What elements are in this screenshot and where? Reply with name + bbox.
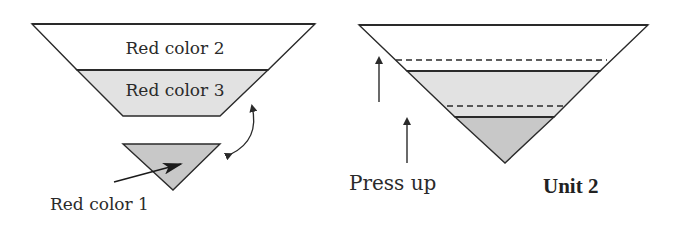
label-red-color-3: Red color 3 [126, 80, 225, 100]
right-funnel [359, 25, 648, 163]
caption-unit-2: Unit 2 [543, 174, 598, 198]
diagram-canvas: Red color 2 Red color 3 Red color 1 Pres… [0, 0, 677, 229]
right-funnel-top-layer [359, 25, 648, 71]
label-press-up: Press up [349, 171, 436, 195]
label-red-color-2: Red color 2 [126, 38, 225, 58]
right-funnel-bottom-layer [455, 117, 554, 163]
left-funnel: Red color 2 Red color 3 [32, 24, 315, 116]
label-red-color-1: Red color 1 [50, 194, 149, 214]
right-funnel-middle-layer [407, 71, 600, 117]
detached-tip: Red color 1 [50, 144, 220, 214]
swap-curved-arrow-icon [231, 106, 254, 154]
